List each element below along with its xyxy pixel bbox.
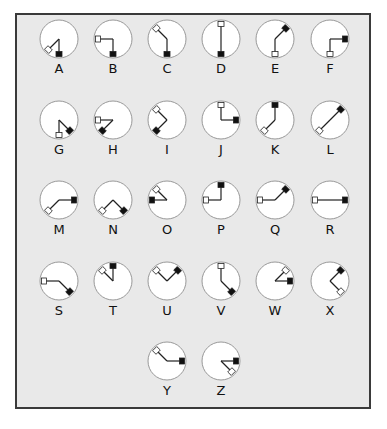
letter-label: U	[145, 303, 189, 318]
semaphore-dial-icon	[308, 17, 352, 61]
black-flag-icon	[218, 52, 224, 57]
semaphore-dial-icon	[145, 259, 189, 303]
letter-label: Z	[199, 383, 243, 398]
semaphore-letter-g: G	[37, 98, 81, 162]
semaphore-letter-e: E	[253, 17, 297, 81]
semaphore-letter-i: I	[145, 98, 189, 162]
semaphore-letter-v: V	[199, 259, 243, 323]
letter-label: P	[199, 222, 243, 237]
semaphore-dial-icon	[145, 98, 189, 142]
semaphore-letter-h: H	[91, 98, 135, 162]
letter-label: X	[308, 303, 352, 318]
white-flag-icon	[96, 36, 101, 42]
semaphore-letter-x: X	[308, 259, 352, 323]
white-flag-icon	[258, 197, 263, 203]
semaphore-dial-icon	[37, 17, 81, 61]
letter-label: N	[91, 222, 135, 237]
semaphore-letter-z: Z	[199, 339, 243, 403]
black-flag-icon	[343, 36, 348, 42]
semaphore-dial-icon	[253, 17, 297, 61]
semaphore-letter-s: S	[37, 259, 81, 323]
white-flag-icon	[272, 52, 278, 57]
black-flag-icon	[150, 197, 155, 203]
white-flag-icon	[218, 22, 224, 27]
semaphore-letter-n: N	[91, 178, 135, 242]
semaphore-dial-icon	[308, 259, 352, 303]
semaphore-letter-m: M	[37, 178, 81, 242]
black-flag-icon	[164, 52, 170, 57]
black-flag-icon	[110, 52, 116, 57]
semaphore-letter-c: C	[145, 17, 189, 81]
semaphore-dial-icon	[91, 259, 135, 303]
semaphore-dial-icon	[91, 178, 135, 222]
semaphore-dial-icon	[145, 17, 189, 61]
semaphore-dial-icon	[37, 259, 81, 303]
semaphore-letter-t: T	[91, 259, 135, 323]
letter-label: S	[37, 303, 81, 318]
semaphore-dial-icon	[91, 98, 135, 142]
semaphore-letter-j: J	[199, 98, 243, 162]
letter-label: K	[253, 142, 297, 157]
white-flag-icon	[96, 117, 101, 123]
semaphore-dial-icon	[253, 178, 297, 222]
letter-label: B	[91, 61, 135, 76]
semaphore-dial-icon	[199, 178, 243, 222]
semaphore-dial-icon	[199, 17, 243, 61]
semaphore-dial-icon	[91, 17, 135, 61]
white-flag-icon	[56, 133, 62, 138]
semaphore-letter-y: Y	[145, 339, 189, 403]
semaphore-letter-p: P	[199, 178, 243, 242]
semaphore-letter-d: D	[199, 17, 243, 81]
letter-label: D	[199, 61, 243, 76]
semaphore-dial-icon	[37, 98, 81, 142]
white-flag-icon	[313, 197, 318, 203]
letter-label: R	[308, 222, 352, 237]
semaphore-letter-l: L	[308, 98, 352, 162]
semaphore-dial-icon	[308, 178, 352, 222]
letter-label: I	[145, 142, 189, 157]
letter-label: A	[37, 61, 81, 76]
black-flag-icon	[343, 197, 348, 203]
black-flag-icon	[72, 197, 77, 203]
black-flag-icon	[218, 183, 224, 188]
semaphore-dial-icon	[199, 339, 243, 383]
semaphore-letter-k: K	[253, 98, 297, 162]
semaphore-dial-icon	[199, 259, 243, 303]
semaphore-letter-f: F	[308, 17, 352, 81]
semaphore-letter-a: A	[37, 17, 81, 81]
semaphore-dial-icon	[253, 259, 297, 303]
white-flag-icon	[204, 197, 209, 203]
semaphore-chart-frame: ABCDEFGHIJKLMNOPQRSTUVWXYZ	[15, 13, 371, 409]
semaphore-dial-icon	[308, 98, 352, 142]
letter-label: F	[308, 61, 352, 76]
letter-label: M	[37, 222, 81, 237]
black-flag-icon	[234, 358, 239, 364]
letter-label: C	[145, 61, 189, 76]
semaphore-letter-o: O	[145, 178, 189, 242]
semaphore-letter-w: W	[253, 259, 297, 323]
letter-label: Q	[253, 222, 297, 237]
semaphore-letter-b: B	[91, 17, 135, 81]
letter-label: H	[91, 142, 135, 157]
semaphore-dial-icon	[253, 98, 297, 142]
semaphore-dial-icon	[37, 178, 81, 222]
semaphore-dial-icon	[145, 178, 189, 222]
letter-label: G	[37, 142, 81, 157]
letter-label: V	[199, 303, 243, 318]
letter-label: W	[253, 303, 297, 318]
letter-label: L	[308, 142, 352, 157]
black-flag-icon	[56, 52, 62, 57]
semaphore-letter-u: U	[145, 259, 189, 323]
white-flag-icon	[42, 278, 47, 284]
black-flag-icon	[272, 103, 278, 108]
semaphore-letter-q: Q	[253, 178, 297, 242]
black-flag-icon	[234, 117, 239, 123]
semaphore-letter-r: R	[308, 178, 352, 242]
white-flag-icon	[218, 264, 224, 269]
letter-label: T	[91, 303, 135, 318]
semaphore-dial-icon	[199, 98, 243, 142]
letter-label: E	[253, 61, 297, 76]
black-flag-icon	[180, 358, 185, 364]
black-flag-icon	[110, 264, 116, 269]
letter-label: O	[145, 222, 189, 237]
